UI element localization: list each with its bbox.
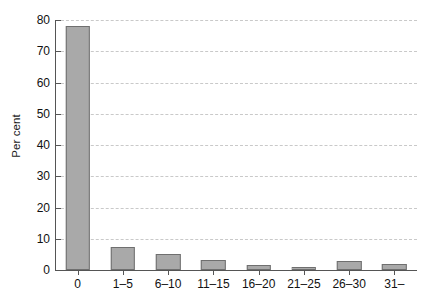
y-axis-tick-label: 70 [22,45,50,57]
x-axis-tick-label: 21–25 [287,277,320,291]
x-axis-tick-label: 26–30 [332,277,365,291]
bar [201,260,225,270]
bar-series [55,20,417,270]
y-axis-tick-label: 60 [22,77,50,89]
x-axis-ticks-and-labels: 01–56–1011–1516–2021–2526–3031– [55,271,417,301]
x-axis-tick-label: 0 [74,277,81,291]
x-axis-tick-mark [213,271,214,275]
y-axis-tick-label: 40 [22,139,50,151]
bar-slot [146,20,191,270]
x-axis-tick-label: 11–15 [197,277,229,291]
x-axis-tick-label: 31– [384,277,404,291]
bar [156,254,180,270]
x-axis-tick-label: 1–5 [113,277,133,291]
y-axis-tick-label: 20 [22,202,50,214]
bar-slot [281,20,326,270]
y-axis-tick-label: 30 [22,170,50,182]
y-axis-tick-label: 0 [22,264,50,276]
x-axis-tick-mark [259,271,260,275]
y-axis-tick-label: 50 [22,108,50,120]
x-axis-tick-label: 16–20 [242,277,275,291]
plot-area [55,20,417,271]
bar-slot [191,20,236,270]
y-axis-tick-label: 10 [22,233,50,245]
x-axis-tick-mark [168,271,169,275]
x-axis-tick-mark [78,271,79,275]
bar-slot [372,20,417,270]
x-axis-tick-mark [394,271,395,275]
bar-slot [236,20,281,270]
bar [65,26,89,270]
x-axis-tick-mark [304,271,305,275]
bar [111,247,135,270]
bar [337,261,361,270]
y-axis-title-text: Per cent [10,114,22,158]
bar-chart-figure: Per cent 01020304050607080 01–56–1011–15… [0,0,424,301]
y-axis-tick-labels: 01020304050607080 [22,0,50,301]
bar-slot [327,20,372,270]
y-axis-tick-label: 80 [22,14,50,26]
bar-slot [55,20,100,270]
bar-slot [100,20,145,270]
x-axis-tick-mark [123,271,124,275]
x-axis-tick-mark [349,271,350,275]
x-axis-tick-label: 6–10 [155,277,182,291]
